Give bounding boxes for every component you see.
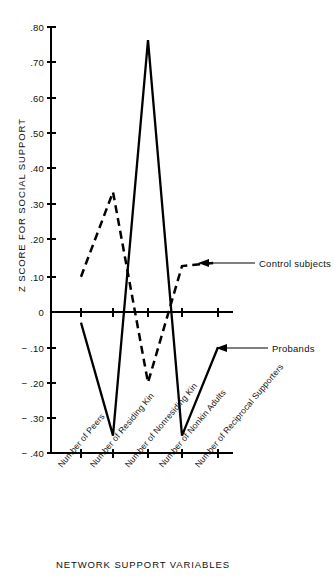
y-tick-label: .50 <box>30 128 44 139</box>
y-axis-title: Z SCORE FOR SOCIAL SUPPORT <box>16 118 27 292</box>
y-tick-label: .40 <box>30 163 44 174</box>
x-category-label: Number of Residing Kin <box>88 391 156 470</box>
series-line-control-subjects <box>81 192 218 383</box>
y-tick-label: 0 <box>39 307 44 318</box>
chart-figure: .80 .70 .60 .50 .40 .30 .20 .10 0 − .10 … <box>0 0 335 584</box>
arrow-head-icon <box>198 259 209 267</box>
y-tick-label: − .40 <box>22 448 44 459</box>
y-tick-label: .10 <box>30 272 44 283</box>
y-tick-label: − .20 <box>22 378 44 389</box>
annotation-control-subjects: Control subjects <box>198 258 331 269</box>
y-tick-label: .60 <box>30 93 44 104</box>
x-axis-title: NETWORK SUPPORT VARIABLES <box>56 559 230 570</box>
y-tick-label: .80 <box>30 22 44 33</box>
chart-canvas: .80 .70 .60 .50 .40 .30 .20 .10 0 − .10 … <box>0 0 335 584</box>
y-tick-label: .20 <box>30 234 44 245</box>
annotation-label-probands: Probands <box>272 343 315 354</box>
y-tick-label: − .10 <box>22 343 44 354</box>
y-tick-label: .70 <box>30 57 44 68</box>
y-tick-label: .30 <box>30 199 44 210</box>
annotation-probands: Probands <box>216 343 315 354</box>
y-tick-label: − .30 <box>22 413 44 424</box>
annotation-label-control-subjects: Control subjects <box>259 258 331 269</box>
x-category-label: Number of Nonkin Adults <box>157 387 228 469</box>
